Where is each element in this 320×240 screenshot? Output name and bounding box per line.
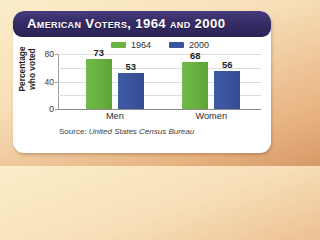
x-axis-line xyxy=(58,109,261,110)
legend-item-1964: 1964 xyxy=(111,40,151,50)
bar-value-label: 73 xyxy=(94,47,104,58)
bar-men-1964: 73 xyxy=(86,59,112,109)
legend-label-2000: 2000 xyxy=(189,40,209,50)
y-axis-tick xyxy=(55,109,58,110)
bar-men-2000: 53 xyxy=(118,73,144,109)
y-axis-label-line2: who voted xyxy=(27,37,37,101)
y-axis-tick-label: 0 xyxy=(49,104,54,114)
x-axis-category-label: Men xyxy=(106,111,124,121)
y-axis-label-line1: Percentage xyxy=(17,37,27,101)
chart-card: American Voters, 1964 and 2000 1964 2000… xyxy=(13,11,271,153)
source-note: Source: United States Census Bureau xyxy=(59,127,194,136)
chart-figure: American Voters, 1964 and 2000 1964 2000… xyxy=(0,0,286,166)
y-axis-label: Percentage who voted xyxy=(17,37,37,101)
source-name: United States Census Bureau xyxy=(89,127,194,136)
y-axis-tick-label: 80 xyxy=(44,49,54,59)
legend-label-1964: 1964 xyxy=(131,40,151,50)
bar-women-1964: 68 xyxy=(182,62,208,109)
bar-value-label: 56 xyxy=(222,59,232,70)
y-axis-tick-label: 40 xyxy=(44,77,54,87)
gridline xyxy=(58,54,261,55)
chart-legend: 1964 2000 xyxy=(111,40,209,50)
bar-value-label: 68 xyxy=(190,50,200,61)
page-title: American Voters, 1964 and 2000 xyxy=(27,16,225,31)
title-banner: American Voters, 1964 and 2000 xyxy=(13,11,271,37)
x-axis-category-label: Women xyxy=(196,111,228,121)
bar-value-label: 53 xyxy=(126,61,136,72)
y-axis-tick xyxy=(55,82,58,83)
legend-swatch-2000-icon xyxy=(169,42,184,48)
y-axis-tick xyxy=(55,54,58,55)
bar-women-2000: 56 xyxy=(214,71,240,110)
source-prefix: Source: xyxy=(59,127,87,136)
legend-item-2000: 2000 xyxy=(169,40,209,50)
legend-swatch-1964-icon xyxy=(111,42,126,48)
plot-area: 040807353Men6856Women xyxy=(58,54,261,109)
